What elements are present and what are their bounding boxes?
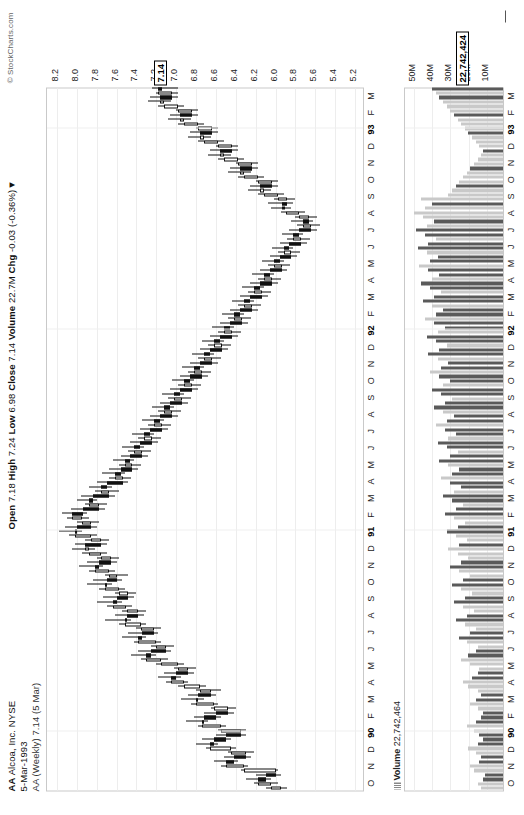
year-divider xyxy=(47,730,363,731)
x-axis-tick-label: O xyxy=(366,171,376,187)
candle-wick xyxy=(131,654,156,655)
price-gridline xyxy=(236,88,237,790)
volume-plot-area[interactable] xyxy=(404,87,504,791)
volume-bars-icon xyxy=(394,782,401,789)
price-plot-area[interactable] xyxy=(46,87,364,791)
candle-wick xyxy=(122,636,147,637)
x-axis-tick-label: J xyxy=(366,624,376,640)
volume-bar xyxy=(443,383,503,386)
volume-bar xyxy=(458,525,503,528)
volume-bar xyxy=(418,246,503,249)
volume-bar xyxy=(432,202,503,205)
volume-bar xyxy=(439,374,503,377)
volume-bar xyxy=(476,720,503,723)
volume-bar xyxy=(447,419,503,422)
candle-body xyxy=(107,481,123,484)
volume-bar xyxy=(454,414,503,417)
candle-body xyxy=(156,645,166,648)
candle-body xyxy=(178,109,192,112)
price-gridline xyxy=(77,88,78,790)
candle-wick xyxy=(158,676,181,677)
volume-bar xyxy=(465,622,503,625)
price-y-tick-label: 5.2 xyxy=(348,68,358,81)
candle-body xyxy=(264,273,270,276)
candle-body xyxy=(113,605,127,608)
candle-body xyxy=(274,259,280,262)
candle-body xyxy=(178,667,188,670)
volume-bar xyxy=(456,534,503,537)
price-gridline xyxy=(355,88,356,790)
x-axis-tick-label: A xyxy=(366,607,376,623)
screenshot-frame: AA Alcoa, Inc. NYSE 5-Mar-1993 AA (Weekl… xyxy=(0,0,524,815)
candle-body xyxy=(180,113,192,116)
candle-body xyxy=(105,583,107,586)
volume-bar xyxy=(478,707,503,710)
volume-bar xyxy=(450,109,503,112)
candle-body xyxy=(299,228,311,231)
x-axis-tick-label: 93 xyxy=(506,121,516,137)
x-axis-tick-label: D xyxy=(366,138,376,154)
candle-body xyxy=(160,414,172,417)
candle-body xyxy=(234,317,242,320)
volume-bar xyxy=(441,476,503,479)
year-divider xyxy=(47,127,363,128)
price-gridline xyxy=(295,88,296,790)
volume-bar xyxy=(441,392,503,395)
candle-body xyxy=(271,786,281,789)
candle-body xyxy=(293,233,299,236)
candle-body xyxy=(89,552,101,555)
x-axis-tick-label: F xyxy=(366,708,376,724)
candle-wick xyxy=(102,472,125,473)
volume-bar xyxy=(423,299,503,302)
candle-body xyxy=(174,397,182,400)
x-axis-tick-label: 92 xyxy=(506,322,516,338)
candle-body xyxy=(158,91,172,94)
candle-body xyxy=(200,131,212,134)
volume-bar xyxy=(432,277,503,280)
chart-symbol-header: AA Alcoa, Inc. NYSE xyxy=(6,700,17,791)
volume-bar xyxy=(443,494,503,497)
volume-bar xyxy=(445,428,503,431)
low-label: Low xyxy=(6,415,17,434)
x-axis-tick-label: 91 xyxy=(366,523,376,539)
x-axis-tick-label: J xyxy=(506,221,516,237)
candle-body xyxy=(117,596,129,599)
candle-body xyxy=(101,490,109,493)
year-divider xyxy=(405,730,503,731)
candle-body xyxy=(204,715,216,718)
candle-body xyxy=(299,215,309,218)
price-y-tick-label: 7.6 xyxy=(110,68,120,81)
candle-body xyxy=(214,343,222,346)
chg-value: -0.03 (-0.36%) xyxy=(6,189,17,251)
x-axis-tick-label: M xyxy=(366,691,376,707)
chart-series-label: AA (Weekly) 7.14 (5 Mar) xyxy=(30,682,41,791)
candle-body xyxy=(218,144,232,147)
candle-body xyxy=(278,197,288,200)
volume-bar xyxy=(468,653,503,656)
candle-body xyxy=(154,423,162,426)
volume-bar xyxy=(461,560,503,563)
high-label: High xyxy=(6,458,17,480)
price-y-tick-label: 6.4 xyxy=(229,68,239,81)
volume-bar xyxy=(428,352,503,355)
volume-bar xyxy=(470,764,503,767)
candle-body xyxy=(161,662,178,665)
volume-bar xyxy=(481,715,503,718)
price-y-tick-label: 6.8 xyxy=(189,68,199,81)
volume-bar xyxy=(430,370,503,373)
candle-body xyxy=(83,507,99,510)
company-text: Alcoa, Inc. NYSE xyxy=(6,700,17,774)
x-axis-tick-label: O xyxy=(366,775,376,791)
volume-last-value-badge: 22,742,424 xyxy=(456,31,469,85)
candle-body xyxy=(121,467,133,470)
candle-body xyxy=(200,689,211,692)
volume-bar xyxy=(472,135,503,138)
candle-body xyxy=(184,383,192,386)
candle-body xyxy=(196,702,214,705)
volume-bar xyxy=(472,676,503,679)
volume-bar xyxy=(463,503,503,506)
x-axis-tick-label: F xyxy=(506,104,516,120)
candle-body xyxy=(95,565,99,568)
candle-body xyxy=(282,206,286,209)
copyright-text: © StockCharts.com xyxy=(6,12,15,83)
